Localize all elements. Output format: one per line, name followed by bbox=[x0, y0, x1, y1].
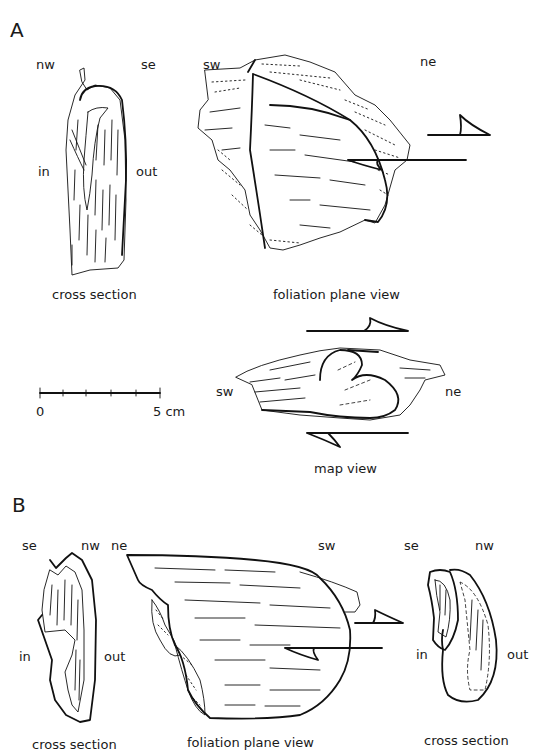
b-cross-left-title: cross section bbox=[32, 738, 117, 751]
b-cross-right-side-in: in bbox=[416, 648, 428, 661]
b-cross-right-orient-left: se bbox=[404, 539, 419, 552]
a-map-view-orient-left: sw bbox=[216, 385, 233, 398]
a-scale-bar-drawing bbox=[40, 388, 160, 398]
scale-bar-end-label: 5 cm bbox=[153, 405, 185, 418]
scale-bar-start-label: 0 bbox=[36, 405, 44, 418]
a-map-view-drawing bbox=[236, 318, 445, 447]
a-foliation-drawing bbox=[198, 55, 490, 250]
a-cross-section-drawing bbox=[66, 68, 126, 275]
b-cross-right-side-out: out bbox=[507, 648, 528, 661]
b-foliation-drawing bbox=[127, 555, 403, 719]
b-cross-right-orient-right: nw bbox=[475, 539, 494, 552]
panel-b-label: B bbox=[12, 495, 26, 515]
panel-a-label: A bbox=[10, 20, 24, 40]
b-cross-section-right-drawing bbox=[428, 570, 497, 702]
b-cross-left-side-in: in bbox=[19, 650, 31, 663]
a-cross-section-side-out: out bbox=[136, 165, 157, 178]
b-cross-left-orient-right: nw bbox=[81, 539, 100, 552]
b-cross-section-left-drawing bbox=[38, 553, 96, 722]
a-cross-section-orient-left: nw bbox=[36, 58, 55, 71]
a-foliation-orient-left: sw bbox=[203, 58, 220, 71]
a-map-view-orient-right: ne bbox=[445, 385, 461, 398]
a-cross-section-orient-right: se bbox=[141, 58, 156, 71]
a-cross-section-side-in: in bbox=[38, 165, 50, 178]
b-foliation-orient-left: ne bbox=[111, 539, 127, 552]
a-cross-section-title: cross section bbox=[52, 288, 137, 301]
a-map-view-title: map view bbox=[314, 462, 377, 475]
diagram-artwork bbox=[0, 0, 541, 754]
b-foliation-orient-right: sw bbox=[318, 539, 335, 552]
a-foliation-orient-right: ne bbox=[420, 55, 436, 68]
b-cross-left-orient-left: se bbox=[22, 539, 37, 552]
a-foliation-title: foliation plane view bbox=[273, 288, 400, 301]
b-cross-right-title: cross section bbox=[424, 734, 509, 747]
b-cross-left-side-out: out bbox=[104, 650, 125, 663]
b-foliation-title: foliation plane view bbox=[187, 736, 314, 749]
